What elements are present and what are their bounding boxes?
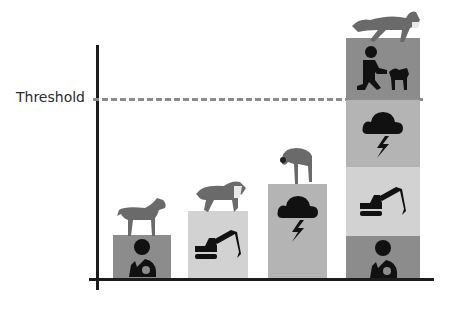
trainer-with-dog-icon xyxy=(355,46,411,92)
segment-vet xyxy=(346,236,420,279)
dog-walking-icon xyxy=(194,178,250,218)
stack-1 xyxy=(113,235,171,279)
storm-cloud-icon xyxy=(361,110,405,158)
dog-sniffing-icon xyxy=(278,146,316,186)
segment-vet xyxy=(113,235,171,279)
x-axis xyxy=(89,278,434,281)
vet-person-with-dog-icon xyxy=(125,237,159,277)
storm-cloud-icon xyxy=(276,194,320,242)
stack-3 xyxy=(268,184,327,279)
threshold-label: Threshold xyxy=(16,89,85,105)
stack-4 xyxy=(346,38,420,279)
segment-storm xyxy=(346,100,420,167)
stack-2 xyxy=(188,211,248,279)
excavator-icon xyxy=(358,185,408,219)
dog-lunging-icon xyxy=(350,8,422,44)
y-axis xyxy=(96,45,99,290)
vet-person-with-dog-icon xyxy=(366,238,400,278)
dog-standing-icon xyxy=(115,196,171,238)
segment-trainer xyxy=(346,38,420,100)
segment-excavator xyxy=(188,211,248,279)
segment-storm xyxy=(268,184,327,279)
segment-excavator xyxy=(346,167,420,236)
excavator-icon xyxy=(193,228,243,262)
